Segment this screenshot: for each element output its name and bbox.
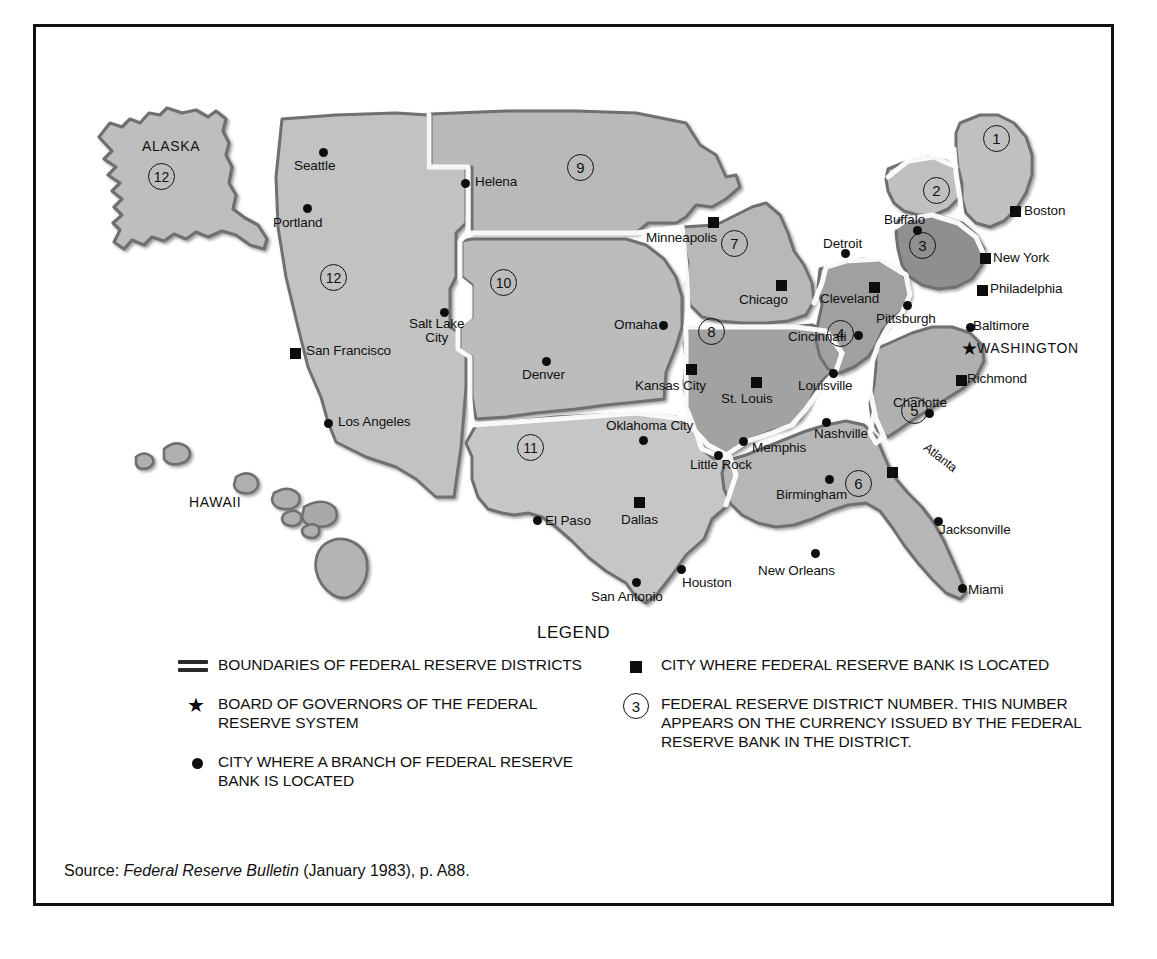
district-number-10: 10 (490, 269, 517, 296)
source-prefix: Source: (64, 862, 119, 879)
source-publication: Federal Reserve Bulletin (124, 862, 299, 879)
branch-city-label: Omaha (614, 318, 658, 332)
branch-city-marker (639, 436, 648, 445)
federal-reserve-districts-map: ALASKAHAWAII12345678910111212SeattlePort… (36, 27, 1111, 617)
district-number-12: 12 (320, 264, 347, 291)
circled-number-value: 3 (623, 693, 649, 719)
district-number-6: 6 (845, 470, 872, 497)
branch-city-label: Buffalo (884, 213, 925, 227)
legend-item-district-number: 3 FEDERAL RESERVE DISTRICT NUMBER. THIS … (619, 694, 1089, 751)
branch-city-marker (903, 301, 912, 310)
branch-city-label: New Orleans (758, 564, 835, 578)
branch-city-label: Portland (273, 216, 322, 230)
branch-city-label: Los Angeles (338, 415, 410, 429)
district-number-2: 2 (923, 177, 950, 204)
district-number-12alaska: 12 (148, 163, 175, 190)
figure-page: ALASKAHAWAII12345678910111212SeattlePort… (0, 0, 1157, 959)
legend-column-right: CITY WHERE FEDERAL RESERVE BANK IS LOCAT… (619, 655, 1089, 771)
district-number-11: 11 (517, 434, 544, 461)
source-suffix: (January 1983), p. A88. (303, 862, 469, 879)
branch-city-label: Seattle (294, 159, 335, 173)
branch-city-marker (925, 409, 934, 418)
reserve-bank-city-marker (980, 253, 991, 264)
branch-city-marker (303, 204, 312, 213)
branch-city-marker (659, 321, 668, 330)
reserve-bank-city-label: St. Louis (721, 392, 773, 406)
branch-city-marker (825, 475, 834, 484)
star-icon: ★ (176, 695, 210, 715)
legend-item-boundaries-label: BOUNDARIES OF FEDERAL RESERVE DISTRICTS (218, 656, 582, 673)
district-number-7: 7 (721, 230, 748, 257)
reserve-bank-city-label: San Francisco (306, 344, 391, 358)
reserve-bank-city-marker (1010, 206, 1021, 217)
branch-city-marker (533, 516, 542, 525)
reserve-bank-city-label: New York (993, 251, 1049, 265)
branch-city-marker (913, 226, 922, 235)
branch-city-label: Baltimore (973, 319, 1029, 333)
branch-city-label: Cincinnati (788, 330, 846, 344)
branch-city-label: Jacksonville (939, 523, 1011, 537)
district-number-9: 9 (567, 154, 594, 181)
branch-city-label: Miami (968, 583, 1004, 597)
branch-city-label: Salt LakeCity (409, 317, 464, 344)
reserve-bank-city-label: Cleveland (820, 292, 879, 306)
branch-city-label: Nashville (814, 427, 868, 441)
branch-city-label: El Paso (545, 514, 591, 528)
filled-square-icon (619, 656, 653, 673)
branch-city-label: Helena (475, 175, 517, 189)
branch-city-label: Memphis (752, 441, 806, 455)
branch-city-label: Little Rock (690, 458, 752, 472)
branch-city-label: Birmingham (776, 488, 847, 502)
reserve-bank-city-label: Philadelphia (990, 282, 1062, 296)
district-number-8: 8 (698, 318, 725, 345)
branch-city-marker (677, 565, 686, 574)
reserve-bank-city-marker (977, 285, 988, 296)
legend-item-branch-city-label: CITY WHERE A BRANCH OF FEDERAL RESERVE B… (218, 753, 573, 789)
branch-city-marker (739, 437, 748, 446)
branch-city-marker (958, 584, 967, 593)
branch-city-label: Detroit (823, 237, 862, 251)
branch-city-marker (854, 331, 863, 340)
reserve-bank-city-marker (634, 497, 645, 508)
reserve-bank-city-marker (708, 217, 719, 228)
branch-city-marker (324, 419, 333, 428)
reserve-bank-city-marker (751, 377, 762, 388)
filled-circle-icon (176, 753, 210, 769)
branch-city-label: Charlotte (893, 396, 947, 410)
legend-item-bank-city-label: CITY WHERE FEDERAL RESERVE BANK IS LOCAT… (661, 656, 1049, 673)
region-label-hawaii: HAWAII (189, 495, 241, 510)
legend-item-boundaries: BOUNDARIES OF FEDERAL RESERVE DISTRICTS (176, 655, 596, 674)
board-of-governors-star-marker: ★ (961, 339, 978, 358)
reserve-bank-city-marker (776, 280, 787, 291)
branch-city-marker (461, 179, 470, 188)
figure-frame: ALASKAHAWAII12345678910111212SeattlePort… (33, 24, 1114, 906)
reserve-bank-city-label: Dallas (621, 513, 658, 527)
branch-city-marker (632, 578, 641, 587)
legend-item-bank-city: CITY WHERE FEDERAL RESERVE BANK IS LOCAT… (619, 655, 1089, 674)
washington-label: WASHINGTON (977, 341, 1079, 356)
source-note: Source: Federal Reserve Bulletin (Januar… (64, 862, 470, 880)
legend-title: LEGEND (36, 623, 1111, 643)
legend-column-left: BOUNDARIES OF FEDERAL RESERVE DISTRICTS … (176, 655, 596, 810)
district-number-1: 1 (983, 125, 1010, 152)
branch-city-marker (542, 357, 551, 366)
reserve-bank-city-marker (887, 467, 898, 478)
branch-city-label: San Antonio (591, 590, 663, 604)
legend: BOUNDARIES OF FEDERAL RESERVE DISTRICTS … (36, 655, 1111, 840)
legend-item-district-number-label: FEDERAL RESERVE DISTRICT NUMBER. THIS NU… (661, 695, 1081, 750)
district-number-3: 3 (909, 232, 936, 259)
branch-city-marker (811, 549, 820, 558)
reserve-bank-city-label: Minneapolis (646, 231, 717, 245)
branch-city-marker (319, 148, 328, 157)
region-label-alaska: ALASKA (142, 139, 200, 154)
branch-city-label: Louisville (798, 379, 853, 393)
reserve-bank-city-label: Boston (1024, 204, 1065, 218)
reserve-bank-city-marker (686, 364, 697, 375)
branch-city-label: Oklahoma City (606, 419, 693, 433)
branch-city-label: Denver (522, 368, 565, 382)
reserve-bank-city-label: Chicago (739, 293, 788, 307)
branch-city-label: Houston (682, 576, 732, 590)
reserve-bank-city-label: Richmond (967, 372, 1027, 386)
reserve-bank-city-marker (956, 375, 967, 386)
reserve-bank-city-label: Kansas City (635, 379, 706, 393)
